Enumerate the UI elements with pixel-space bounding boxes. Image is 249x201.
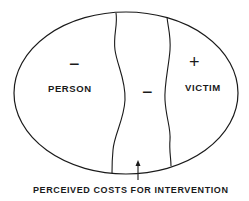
left-divider-line [112,13,125,173]
middle-minus-sign: − [142,83,153,101]
right-divider-line [165,17,171,166]
diagram-canvas [0,0,249,201]
caption: PERCEIVED COSTS FOR INTERVENTION [33,185,229,195]
arrow-head-icon [136,160,141,166]
left-minus-sign: − [69,55,80,73]
person-label: PERSON [48,83,92,94]
right-plus-sign: + [189,53,200,71]
victim-label: VICTIM [185,82,221,93]
